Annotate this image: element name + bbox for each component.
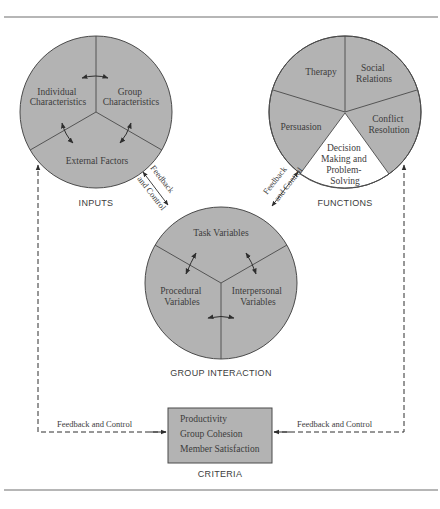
criteria-caption: CRITERIA (198, 469, 242, 479)
criteria-productivity: Productivity (180, 414, 227, 424)
segment-therapy: Therapy (305, 67, 337, 77)
functions-caption: FUNCTIONS (317, 198, 372, 208)
segment-social-relations: Social Relations (356, 63, 392, 84)
inputs-caption: INPUTS (79, 198, 114, 208)
segment-external-factors: External Factors (66, 156, 129, 166)
functions-group-feedback-link: Feedback and Control (261, 164, 305, 206)
svg-text:Feedback and Control: Feedback and Control (57, 419, 133, 429)
segment-conflict-resolution: Conflict Resolution (368, 114, 409, 135)
svg-text:Feedback and Control: Feedback and Control (297, 419, 373, 429)
segment-task-variables: Task Variables (193, 228, 249, 238)
criteria-group-cohesion: Group Cohesion (180, 429, 243, 439)
group-process-diagram: Individual Characteristics Group Charact… (0, 0, 440, 509)
criteria-member-satisfaction: Member Satisfaction (180, 444, 260, 454)
criteria-box: Productivity Group Cohesion Member Satis… (168, 408, 272, 463)
segment-persuasion: Persuasion (280, 122, 321, 132)
group-interaction-caption: GROUP INTERACTION (170, 368, 271, 378)
segment-individual-characteristics: Individual Characteristics (30, 87, 87, 107)
segment-procedural-variables: Procedural Variables (160, 286, 204, 307)
